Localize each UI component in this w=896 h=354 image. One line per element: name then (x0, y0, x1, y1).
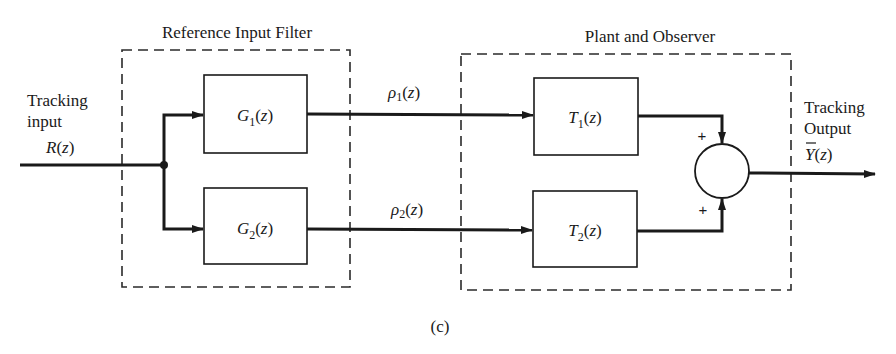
summer-sign-top: + (698, 127, 707, 144)
output-label-line2: Output (804, 119, 852, 138)
block-g2: G2(z) (204, 188, 307, 264)
block-t2: T2(z) (533, 191, 637, 267)
output-signal-label: Y(z) (805, 145, 832, 164)
output-label-line1: Tracking (804, 98, 865, 117)
rho1-wire (307, 114, 533, 115)
summer-circle (695, 144, 749, 198)
plant-observer-title: Plant and Observer (585, 27, 716, 46)
reference-filter-title: Reference Input Filter (162, 23, 312, 42)
block-t1: T1(z) (534, 78, 638, 155)
rho2-label: ρ2(z) (390, 200, 423, 221)
input-signal-label: R(z) (45, 138, 74, 157)
t2-to-summer-wire (637, 199, 722, 231)
branch-wire-bottom (164, 165, 203, 229)
branch-wire-top (164, 115, 203, 165)
rho1-label: ρ1(z) (387, 83, 420, 104)
summer-sign-bottom: + (699, 201, 708, 218)
input-label-line1: Tracking (27, 91, 88, 110)
block-g1: G1(z) (204, 75, 307, 153)
input-label-line2: input (27, 112, 62, 131)
tracking-output-label: Tracking Output Y(z) (804, 98, 865, 164)
t1-to-summer-wire (638, 116, 722, 143)
figure-caption: (c) (431, 317, 450, 336)
output-wire (749, 173, 875, 174)
block-diagram: Reference Input Filter Plant and Observe… (0, 0, 896, 354)
tracking-input-label: Tracking input R(z) (27, 91, 88, 157)
rho2-wire (307, 229, 532, 230)
